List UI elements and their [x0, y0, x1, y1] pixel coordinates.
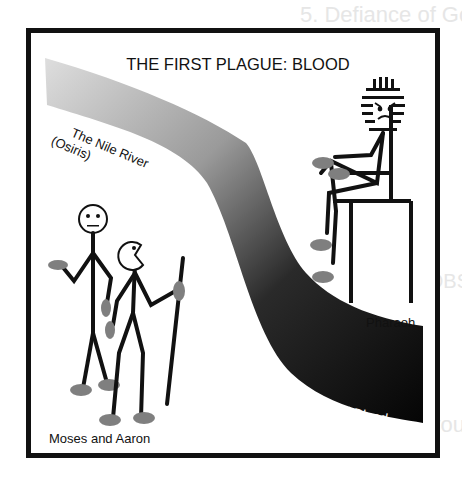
aaron-head [118, 242, 143, 270]
aaron-figure [113, 258, 183, 418]
plague-illustration [31, 33, 445, 463]
page-title: THE FIRST PLAGUE: BLOOD [31, 55, 445, 74]
throne [333, 105, 411, 303]
pharaoh-headdress [361, 77, 405, 131]
illustration-frame: THE FIRST PLAGUE: BLOOD The Nile River (… [26, 28, 440, 458]
moses-figure [61, 205, 111, 388]
staff [167, 258, 183, 404]
pharaoh-hands-feet [310, 157, 350, 283]
pharaoh-label: Pharaoh [366, 315, 415, 330]
bleed-through-line: 5. Defiance of God's Word causes [300, 2, 462, 28]
moses-and-aaron-label: Moses and Aaron [49, 431, 150, 446]
